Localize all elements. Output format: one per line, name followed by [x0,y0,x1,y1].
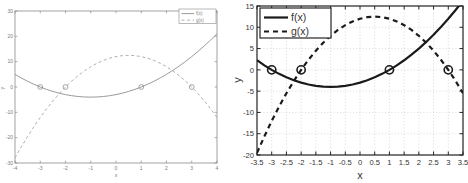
y-tick-label: 30 [7,8,13,14]
x-tick-label: 1 [140,165,143,171]
x-tick-label: 0 [358,158,362,167]
x-tick-label: 2 [165,165,168,171]
tick-labels: -4-3-2-101234-30-20-100102030 [6,8,219,171]
x-tick-label: -1.5 [309,158,322,167]
series-f-curve [15,34,217,97]
y-tick-label: -5 [247,87,254,96]
tick-marks [15,11,217,163]
y-tick-label: 5 [250,44,254,53]
plot-box [15,11,217,163]
y-tick-label: -20 [6,134,13,140]
y-tick-label: 15 [246,2,254,11]
x-tick-label: 3 [190,165,193,171]
legend: f(x)g(x) [179,9,216,24]
y-tick-label: 10 [246,23,254,32]
x-tick-label: -1 [89,165,94,171]
legend-label: f(x) [291,11,306,23]
x-tick-label: 4 [216,165,219,171]
x-tick-label: 3 [446,158,450,167]
legend-label: f(x) [196,11,203,16]
x-tick-label: -2.5 [280,158,293,167]
x-tick-label: -4 [13,165,18,171]
root-markers [38,85,194,90]
x-tick-label: -3 [268,158,275,167]
x-tick-label: 0 [115,165,118,171]
y-tick-label: -10 [6,109,13,115]
y-tick-label: -30 [6,160,13,166]
y-tick-label: 0 [250,66,254,75]
y-tick-label: -20 [243,151,254,160]
y-tick-label: 10 [7,58,13,64]
x-tick-label: -1 [327,158,334,167]
legend: f(x)g(x) [260,8,331,38]
y-axis-label: y [234,77,243,83]
y-tick-label: -10 [243,108,254,117]
x-tick-label: 0.5 [369,158,380,167]
y-tick-label: 0 [10,84,13,90]
right-line-chart: -3.5-3-2.5-2-1.5-1-0.500.511.522.533.5-2… [234,0,468,183]
x-tick-label: -0.5 [339,158,352,167]
x-axis-label: x [357,169,363,181]
left-plot-svg: -4-3-2-101234-30-20-100102030f(x)g(x)xy [0,0,234,183]
x-tick-label: 2 [417,158,421,167]
series-g-curve [15,55,217,158]
x-tick-label: 3.5 [458,158,468,167]
x-tick-label: -3 [38,165,43,171]
root-marker-circle [63,85,68,90]
y-axis-label: y [0,86,5,89]
y-tick-label: -15 [243,129,254,138]
legend-label: g(x) [291,25,309,37]
x-tick-label: 2.5 [428,158,439,167]
legend-label: g(x) [196,18,204,23]
figure: -4-3-2-101234-30-20-100102030f(x)g(x)xy … [0,0,468,183]
right-plot-svg: -3.5-3-2.5-2-1.5-1-0.500.511.522.533.5-2… [234,0,468,183]
y-tick-label: 20 [7,33,13,39]
x-tick-label: -2 [298,158,305,167]
left-line-chart: -4-3-2-101234-30-20-100102030f(x)g(x)xy [0,0,234,183]
x-axis-label: x [115,172,118,178]
x-tick-label: 1.5 [399,158,410,167]
x-tick-label: 1 [387,158,391,167]
x-tick-label: -2 [63,165,68,171]
